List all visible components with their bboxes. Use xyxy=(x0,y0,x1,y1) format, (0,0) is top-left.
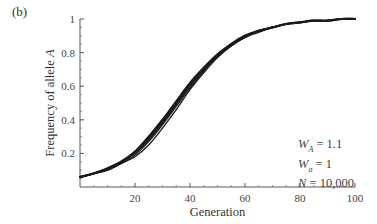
y-tick-label: 0.4 xyxy=(61,114,75,126)
y-axis-title: Frequency of allele A xyxy=(43,49,57,157)
annotation-line: N = 10,000 xyxy=(298,176,354,191)
x-tick-label: 100 xyxy=(347,192,364,204)
y-tick-label: 0.2 xyxy=(61,147,75,159)
annotation-line: WA = 1.1 xyxy=(298,137,354,157)
y-tick-label: 0.8 xyxy=(61,47,75,59)
x-tick-label: 40 xyxy=(185,192,197,204)
parameter-annotation: WA = 1.1 Wa = 1 N = 10,000 xyxy=(298,137,354,191)
annotation-line: Wa = 1 xyxy=(298,157,354,177)
x-tick-label: 20 xyxy=(130,192,142,204)
x-axis-title: Generation xyxy=(190,205,246,219)
x-tick-label: 60 xyxy=(240,192,252,204)
x-tick-label: 80 xyxy=(295,192,307,204)
y-tick-label: 1 xyxy=(70,13,76,25)
y-tick-label: 0.6 xyxy=(61,80,75,92)
